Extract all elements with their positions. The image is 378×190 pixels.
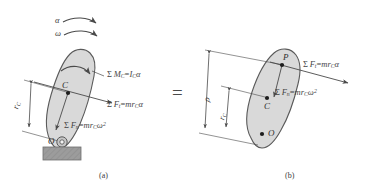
pivot-dot-b bbox=[260, 132, 264, 136]
mass-radius-term: mr bbox=[84, 120, 93, 130]
alpha-term: α bbox=[136, 69, 140, 79]
radius-subscript: C bbox=[221, 113, 228, 118]
percussion-point-label-b: P bbox=[283, 53, 289, 62]
figure-container: α ω Σ MC=ICα Σ Ft=mrCα Σ Fn=mrCω2 C O rC… bbox=[0, 0, 378, 190]
center-of-mass-dot-b bbox=[265, 96, 269, 100]
dim-line-rc-b bbox=[226, 91, 229, 127]
ground-support-a bbox=[43, 147, 81, 160]
mass-radius-term: mr bbox=[125, 99, 134, 109]
alpha-label-a: α bbox=[55, 16, 59, 25]
caption-panel-a: (a) bbox=[99, 172, 108, 180]
pin-hole-a bbox=[60, 140, 64, 144]
equation-tangential-force-b: Σ Ft=mrCα bbox=[303, 60, 339, 70]
radius-subscript: C bbox=[15, 102, 22, 107]
center-of-mass-label-a: C bbox=[62, 81, 68, 90]
equation-normal-force-b: Σ Fn=mrCω2 bbox=[275, 88, 317, 98]
center-of-mass-dot-a bbox=[66, 91, 70, 95]
dim-line-rho-b bbox=[205, 54, 209, 128]
alpha-term: α bbox=[335, 59, 339, 69]
rigid-body-shape-a bbox=[46, 49, 95, 148]
omega-arc-arrow bbox=[64, 31, 97, 36]
moment-symbol: M bbox=[114, 69, 121, 79]
alpha-term: α bbox=[139, 99, 143, 109]
percussion-point-dot-b bbox=[280, 63, 284, 67]
alpha-arc-arrow bbox=[63, 18, 96, 23]
mass-radius-term: mr bbox=[295, 87, 304, 97]
caption-panel-b: (b) bbox=[285, 172, 294, 180]
omega-exponent: 2 bbox=[103, 121, 106, 127]
omega-label-a: ω bbox=[55, 29, 61, 38]
mass-radius-term: mr bbox=[321, 59, 330, 69]
center-of-mass-label-b: C bbox=[264, 102, 270, 111]
equation-normal-force-a: Σ Fn=mrCω2 bbox=[64, 121, 106, 131]
omega-exponent: 2 bbox=[314, 88, 317, 94]
dim-line-rc-a bbox=[29, 84, 31, 127]
equivalence-equals-sign: = bbox=[172, 83, 183, 102]
equation-tangential-force-a: Σ Ft=mrCα bbox=[107, 100, 143, 110]
equation-moment-about-c-a: Σ MC=ICα bbox=[107, 70, 141, 80]
pivot-label-a: O bbox=[48, 137, 55, 146]
pivot-label-b: O bbox=[268, 129, 275, 138]
